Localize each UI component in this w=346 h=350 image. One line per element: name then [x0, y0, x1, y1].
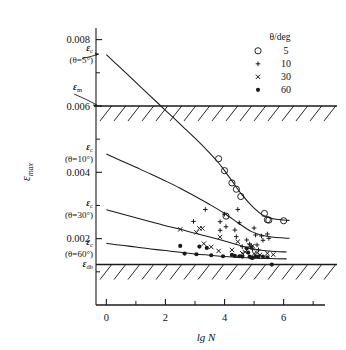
- eps-c-5-label: εc: [86, 43, 93, 54]
- y-axis-title: εmax: [19, 163, 35, 182]
- y-tick-label: 0.004: [66, 167, 90, 178]
- hatch-stroke: [254, 106, 266, 121]
- hatch-stroke: [156, 265, 168, 280]
- curve-theta-30: [106, 210, 286, 252]
- datapoint-theta-60: [197, 245, 201, 249]
- hatch-stroke: [128, 106, 140, 121]
- hatch-stroke: [296, 265, 308, 280]
- datapoint-theta-60: [261, 254, 265, 258]
- hatch-stroke: [114, 106, 126, 121]
- eps-c-10-sublabel: (θ=10°): [65, 154, 93, 164]
- hatch-stroke: [212, 265, 224, 280]
- datapoint-theta-60: [209, 253, 213, 257]
- hatch-stroke: [240, 106, 252, 121]
- hatch-stroke: [198, 265, 210, 280]
- curves-group: [106, 55, 289, 259]
- tick-labels-group: 0.0020.0040.0060.0080246: [66, 34, 286, 323]
- hatch-stroke: [254, 265, 266, 280]
- datapoint-theta-60: [194, 252, 198, 256]
- datapoint-theta-60: [221, 254, 225, 258]
- legend-group: θ/deg5103060: [255, 32, 291, 95]
- hatch-stroke: [268, 106, 280, 121]
- datapoint-theta-60: [178, 244, 182, 248]
- y-tick-label: 0.006: [66, 101, 90, 112]
- datapoint-theta-60: [245, 246, 249, 250]
- x-axis-title: lg N: [197, 331, 216, 343]
- hatch-stroke: [324, 265, 336, 280]
- legend-label-5: 5: [284, 45, 289, 56]
- legend-label-60: 60: [281, 84, 291, 95]
- hatch-stroke: [198, 106, 210, 121]
- hatch-stroke: [170, 106, 182, 121]
- hatch-stroke: [282, 265, 294, 280]
- hatch-stroke: [240, 265, 252, 280]
- eps-c-60-label: εc: [86, 237, 93, 248]
- hatch-stroke: [142, 265, 154, 280]
- hatch-stroke: [296, 106, 308, 121]
- legend-label-10: 10: [281, 58, 291, 69]
- hatch-stroke: [282, 106, 294, 121]
- hatch-stroke: [184, 265, 196, 280]
- chart-canvas: 0.0020.0040.0060.0080246 εc(θ=5°)εmεc(θ=…: [0, 0, 346, 350]
- datapoint-theta-60: [256, 254, 260, 258]
- hatch-stroke: [184, 106, 196, 121]
- hatch-stroke: [170, 265, 182, 280]
- datapoint-theta-60: [240, 254, 244, 258]
- x-tick-label: 6: [281, 312, 286, 323]
- eps-m-label: εm: [73, 82, 82, 93]
- eps-c-60-sublabel: (θ=60°): [65, 249, 93, 259]
- hatch-stroke: [268, 265, 280, 280]
- hatch-stroke: [128, 265, 140, 280]
- axes-group: [96, 28, 325, 305]
- legend-marker-60: [256, 88, 260, 92]
- legend-title: θ/deg: [270, 32, 291, 42]
- x-tick-label: 2: [163, 312, 168, 323]
- hatch-stroke: [310, 106, 322, 121]
- hatch-stroke: [142, 106, 154, 121]
- legend-marker-5: [255, 48, 261, 54]
- curve-theta-5: [106, 55, 289, 221]
- datapoint-theta-60: [233, 254, 237, 258]
- figure-container: 0.0020.0040.0060.0080246 εc(θ=5°)εmεc(θ=…: [0, 0, 346, 350]
- datapoint-theta-60: [265, 255, 269, 259]
- hatch-stroke: [226, 265, 238, 280]
- data-points-group: [178, 156, 287, 267]
- eps-c-10-label: εc: [86, 142, 93, 153]
- hatch-stroke: [212, 106, 224, 121]
- eps-c-5-sublabel: (θ=5°): [70, 55, 93, 65]
- hatch-stroke: [324, 106, 336, 121]
- hatch-stroke: [310, 265, 322, 280]
- hatch-stroke: [100, 106, 112, 121]
- x-tick-label: 0: [104, 312, 109, 323]
- curve-theta-10: [106, 154, 289, 238]
- datapoint-theta-60: [183, 251, 187, 255]
- legend-label-30: 30: [281, 71, 291, 82]
- eps-db-label: εdb: [83, 259, 93, 270]
- hatch-stroke: [226, 106, 238, 121]
- datapoint-theta-60: [270, 262, 274, 266]
- x-tick-label: 4: [222, 312, 228, 323]
- datapoint-theta-5: [216, 156, 222, 162]
- hatch-stroke: [100, 265, 112, 280]
- eps-c-30-sublabel: (θ=30°): [65, 210, 93, 220]
- hatched-bands: [96, 106, 337, 280]
- hatch-stroke: [156, 106, 168, 121]
- hatch-stroke: [114, 265, 126, 280]
- datapoint-theta-60: [246, 250, 250, 254]
- datapoint-theta-60: [205, 246, 209, 250]
- eps-c-30-label: εc: [86, 198, 93, 209]
